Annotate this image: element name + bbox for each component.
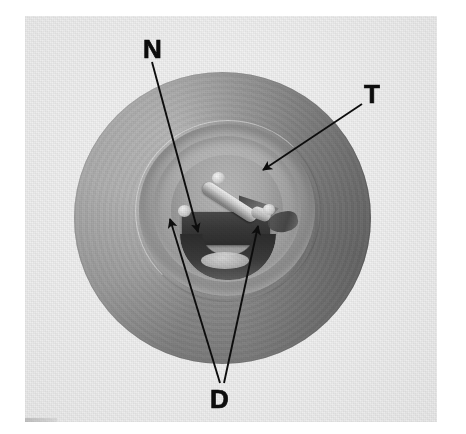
- plate-edge-mark: [25, 418, 57, 422]
- needle-knob: [212, 172, 225, 184]
- photographic-plate: [25, 16, 437, 422]
- disc-assembly: [25, 16, 437, 422]
- reflective-pool: [201, 252, 249, 269]
- figure-photograph: N T D: [0, 0, 466, 434]
- label-n: N: [143, 36, 162, 62]
- deposit-nub-right: [263, 204, 275, 215]
- label-d: D: [210, 386, 229, 412]
- deposit-nub-left: [178, 205, 191, 217]
- label-t: T: [364, 81, 380, 107]
